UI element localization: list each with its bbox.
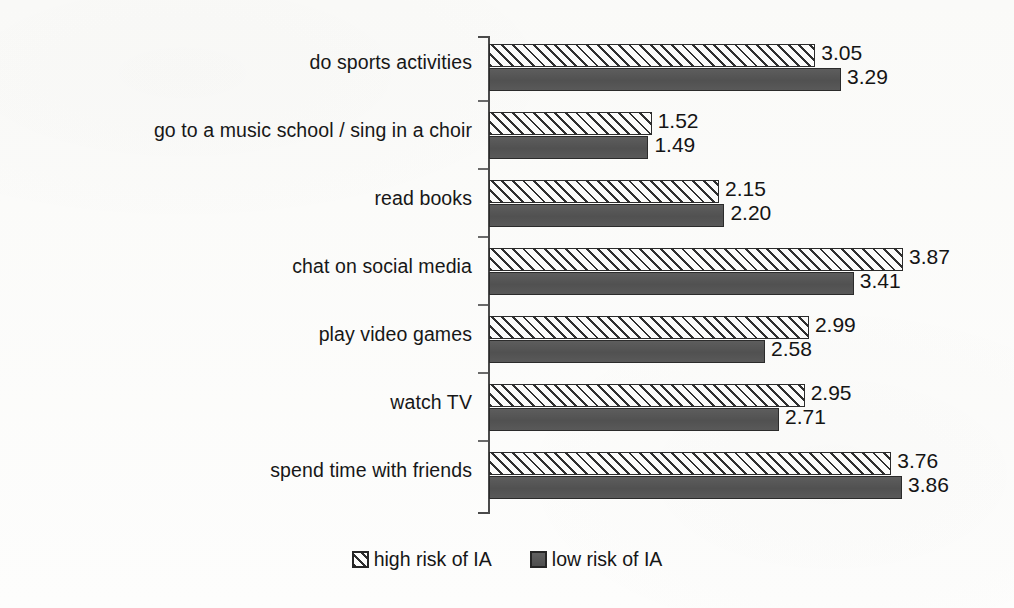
bar-rect	[489, 476, 902, 499]
value-label-high-risk: 2.95	[811, 381, 852, 404]
bar-group: go to a music school / sing in a choir1.…	[0, 106, 1014, 174]
value-label-high-risk: 3.76	[897, 449, 938, 472]
bar-rect	[489, 112, 652, 135]
grouped-bar-chart: do sports activities3.053.29go to a musi…	[0, 0, 1014, 608]
legend-item-low-risk[interactable]: low risk of IA	[530, 548, 663, 570]
legend-swatch-icon	[530, 551, 547, 568]
category-label: go to a music school / sing in a choir	[12, 118, 472, 142]
bar-high-risk[interactable]	[489, 248, 903, 271]
value-label-low-risk: 2.20	[730, 201, 771, 224]
value-label-low-risk: 3.86	[908, 473, 949, 496]
bar-high-risk[interactable]	[489, 452, 891, 475]
bar-group: spend time with friends3.763.86	[0, 446, 1014, 514]
bar-rect	[489, 180, 719, 203]
bar-low-risk[interactable]	[489, 68, 841, 91]
legend-swatch-icon	[352, 551, 369, 568]
bar-group: watch TV2.952.71	[0, 378, 1014, 446]
legend-label: high risk of IA	[374, 548, 492, 570]
bar-rect	[489, 204, 724, 227]
bar-high-risk[interactable]	[489, 112, 652, 135]
bar-low-risk[interactable]	[489, 476, 902, 499]
bar-low-risk[interactable]	[489, 272, 854, 295]
bar-low-risk[interactable]	[489, 204, 724, 227]
bar-low-risk[interactable]	[489, 340, 765, 363]
bar-rect	[489, 340, 765, 363]
bar-high-risk[interactable]	[489, 180, 719, 203]
category-label: play video games	[12, 322, 472, 346]
value-label-low-risk: 2.58	[771, 337, 812, 360]
legend-item-high-risk[interactable]: high risk of IA	[352, 548, 492, 570]
plot-area: do sports activities3.053.29go to a musi…	[0, 0, 1014, 540]
bar-rect	[489, 272, 854, 295]
value-label-low-risk: 2.71	[785, 405, 826, 428]
bar-rect	[489, 68, 841, 91]
category-label: chat on social media	[12, 254, 472, 278]
legend-label: low risk of IA	[552, 548, 663, 570]
value-label-low-risk: 3.29	[847, 65, 888, 88]
bar-rect	[489, 44, 815, 67]
value-label-high-risk: 2.99	[815, 313, 856, 336]
bar-group: do sports activities3.053.29	[0, 38, 1014, 106]
bar-rect	[489, 384, 805, 407]
value-label-high-risk: 3.05	[821, 41, 862, 64]
value-label-high-risk: 2.15	[725, 177, 766, 200]
bar-group: read books2.152.20	[0, 174, 1014, 242]
category-label: watch TV	[12, 390, 472, 414]
bar-rect	[489, 408, 779, 431]
bar-low-risk[interactable]	[489, 408, 779, 431]
bar-high-risk[interactable]	[489, 384, 805, 407]
value-label-high-risk: 3.87	[909, 245, 950, 268]
value-label-low-risk: 3.41	[860, 269, 901, 292]
bar-rect	[489, 452, 891, 475]
bar-group: chat on social media3.873.41	[0, 242, 1014, 310]
category-label: do sports activities	[12, 50, 472, 74]
bar-group: play video games2.992.58	[0, 310, 1014, 378]
category-label: read books	[12, 186, 472, 210]
category-label: spend time with friends	[12, 458, 472, 482]
bar-low-risk[interactable]	[489, 136, 648, 159]
value-label-high-risk: 1.52	[658, 109, 699, 132]
bar-high-risk[interactable]	[489, 44, 815, 67]
chart-legend: high risk of IAlow risk of IA	[0, 548, 1014, 570]
bar-rect	[489, 316, 809, 339]
bar-rect	[489, 248, 903, 271]
value-label-low-risk: 1.49	[654, 133, 695, 156]
bar-high-risk[interactable]	[489, 316, 809, 339]
bar-rect	[489, 136, 648, 159]
